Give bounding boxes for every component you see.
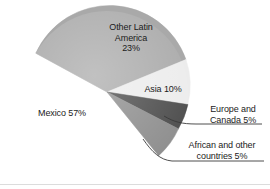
pie-label-europe-canada-line2: Canada 5% [200, 115, 266, 126]
pie-chart: Other Latin America 23% Asia 10% Mexico … [0, 0, 270, 189]
pie-label-other-latin-america-line2: America [95, 33, 167, 44]
pie-label-other-latin-america-line1: Other Latin [95, 22, 167, 33]
pie-label-asia-line1: Asia 10% [132, 84, 194, 95]
bottom-divider [0, 184, 270, 185]
pie-label-african-other-line1: African and other [176, 140, 268, 151]
pie-label-mexico-line1: Mexico 57% [27, 108, 97, 119]
pie-label-african-other: African and other countries 5% [176, 140, 268, 161]
pie-label-african-other-line2: countries 5% [176, 151, 268, 162]
pie-label-other-latin-america: Other Latin America 23% [95, 22, 167, 54]
pie-label-mexico: Mexico 57% [27, 108, 97, 119]
pie-label-other-latin-america-line3: 23% [95, 43, 167, 54]
pie-label-asia: Asia 10% [132, 84, 194, 95]
pie-label-europe-canada: Europe and Canada 5% [200, 104, 266, 125]
pie-label-europe-canada-line1: Europe and [200, 104, 266, 115]
